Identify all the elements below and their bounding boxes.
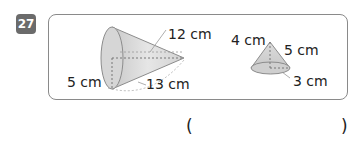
left-cone-radius-label: 5 cm [67,74,102,90]
left-cone-slant-label: 12 cm [168,26,212,42]
right-cone-slant-label: 5 cm [284,42,319,58]
left-cone-height-label: 13 cm [146,76,190,92]
answer-close-paren: ) [341,116,348,136]
right-cone-radius-label: 3 cm [293,73,328,89]
right-cone-height-label: 4 cm [231,32,266,48]
answer-open-paren: ( [186,116,193,136]
